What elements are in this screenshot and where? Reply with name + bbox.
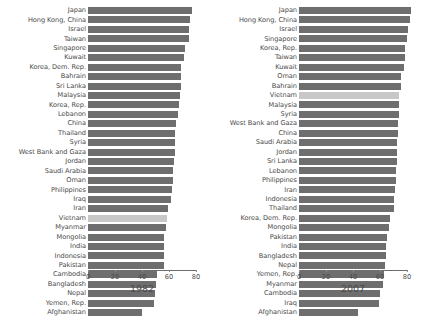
bar-track [299,6,421,15]
x-axis-2007: 020406080 2007 [210,267,421,301]
category-label: Jordan [210,149,299,156]
bar-row: Bahrain [0,72,210,81]
bar-track [299,176,421,185]
bar [299,92,399,99]
category-label: Hong Kong, China [0,17,88,24]
bar-track [88,242,210,251]
bar-track [299,138,421,147]
bar [88,120,176,127]
bar-track [299,195,421,204]
axis-tick [88,270,89,272]
bar [88,101,179,108]
axis-tick [326,270,327,272]
chart-panel-2007: JapanHong Kong, ChinaIsraelSingaporeKore… [210,0,421,301]
bar-track [299,110,421,119]
category-label: Israel [0,26,88,33]
bar [299,35,407,42]
category-label: West Bank and Gaza [210,120,299,127]
bar-row: Sri Lanka [0,82,210,91]
category-label: India [0,243,88,250]
bar [299,26,408,33]
bar-track [88,25,210,34]
bar [299,111,399,118]
bar-track [299,91,421,100]
bar-row: Kuwait [0,53,210,62]
category-label: Bangladesh [210,253,299,260]
plot-area-1982: JapanHong Kong, ChinaIsraelTaiwanSingapo… [0,0,210,301]
bar [88,83,181,90]
category-label: Saudi Arabia [210,139,299,146]
bar-row: Jordan [210,148,421,157]
category-label: Malaysia [210,102,299,109]
category-label: Kuwait [0,54,88,61]
category-label: Sri Lanka [0,83,88,90]
bar-row: Indonesia [210,195,421,204]
bar [88,16,190,23]
bar-row: Oman [0,176,210,185]
bar-row: Saudi Arabia [210,138,421,147]
category-label: Iraq [0,196,88,203]
bar-row: Philippines [210,176,421,185]
bar-row: Afghanistan [210,308,421,317]
category-label: India [210,243,299,250]
bar-row: China [210,129,421,138]
bar [88,130,175,137]
bar [299,158,397,165]
bar-row: Korea, Rep. [210,44,421,53]
bar-row: Korea, Rep. [0,100,210,109]
bar-row: Pakistan [210,233,421,242]
axis-tick-label: 80 [403,273,411,281]
bar-row: Iraq [0,195,210,204]
bar-row: Indonesia [0,251,210,260]
bar [88,252,164,259]
bar-track [299,185,421,194]
category-label: Syria [0,139,88,146]
bar [299,224,389,231]
axis-tick [299,270,300,272]
bar-row: Myanmar [0,223,210,232]
bar [299,167,396,174]
bar-row: Thailand [0,129,210,138]
bar-track [88,6,210,15]
bar-row: Taiwan [210,53,421,62]
category-label: Korea, Dem. Rep. [210,215,299,222]
bar [88,177,173,184]
bar-track [88,138,210,147]
bar-track [88,91,210,100]
bar [88,73,181,80]
category-label: Korea, Rep. [0,102,88,109]
category-label: Malaysia [0,92,88,99]
bar-track [88,233,210,242]
bar [299,186,395,193]
bar [299,64,404,71]
bar [299,54,405,61]
bar-track [88,223,210,232]
bar-row: West Bank and Gaza [210,119,421,128]
axis-tick-label: 20 [111,273,119,281]
bar-track [88,214,210,223]
category-label: Lebanon [0,111,88,118]
axis-tick [380,270,381,272]
bar-row: Lebanon [0,110,210,119]
plot-area-2007: JapanHong Kong, ChinaIsraelSingaporeKore… [210,0,421,301]
bar [88,234,164,241]
bar-row: Hong Kong, China [210,15,421,24]
bar-row: Taiwan [0,34,210,43]
category-label: Sri Lanka [210,158,299,165]
category-label: Jordan [0,158,88,165]
category-label: Philippines [210,177,299,184]
bar [299,149,397,156]
bar [299,83,401,90]
category-label: Iran [0,205,88,212]
bar [88,26,189,33]
bar-track [299,204,421,213]
category-label: Oman [210,73,299,80]
category-label: Thailand [210,205,299,212]
bar-track [299,251,421,260]
bar-row: Malaysia [210,100,421,109]
bar [299,130,398,137]
bar-track [299,214,421,223]
bar [88,309,142,316]
bar-track [88,148,210,157]
